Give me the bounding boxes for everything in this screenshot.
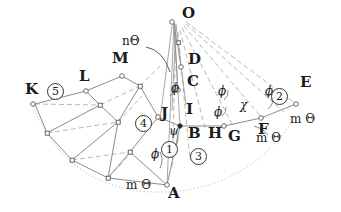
circled-number-5: 5: [47, 83, 64, 100]
label-phi-at-C: ϕ: [171, 82, 179, 94]
circled-number-1: 1: [161, 141, 178, 158]
label-m-theta-at-A: m Θ: [126, 179, 151, 191]
label-chi: χ: [240, 99, 247, 111]
point-label-M: M: [112, 51, 129, 66]
point-label-O: O: [182, 6, 195, 21]
circled-number-4: 4: [135, 115, 152, 132]
label-n-theta: nΘ: [122, 35, 140, 47]
diagram-canvas: O D C E I B J H G F A K L M nΘ ϕ ϕ ϕ χ ϕ…: [0, 0, 341, 212]
point-label-A: A: [168, 186, 180, 201]
point-label-I: I: [186, 102, 193, 117]
point-label-E: E: [300, 75, 311, 90]
diagram-vector-layer: [0, 0, 341, 212]
label-m-theta-at-F: m Θ: [290, 113, 315, 125]
label-psi-at-B: ψ: [169, 125, 178, 137]
label-phi-middle-upper: ϕ: [218, 85, 226, 97]
circled-number-3: 3: [190, 148, 207, 165]
point-label-J: J: [161, 106, 168, 121]
point-label-G: G: [228, 129, 241, 144]
label-m-theta-at-G: m Θ: [256, 132, 281, 144]
point-label-D: D: [188, 52, 201, 67]
point-label-B: B: [188, 126, 201, 141]
label-phi-at-A: ϕ: [151, 148, 159, 160]
point-label-C: C: [187, 74, 199, 89]
point-label-L: L: [79, 69, 90, 84]
circled-number-2: 2: [271, 88, 288, 105]
label-phi-middle-lower: ϕ: [214, 106, 222, 118]
point-label-H: H: [208, 126, 222, 141]
point-label-K: K: [25, 82, 38, 97]
